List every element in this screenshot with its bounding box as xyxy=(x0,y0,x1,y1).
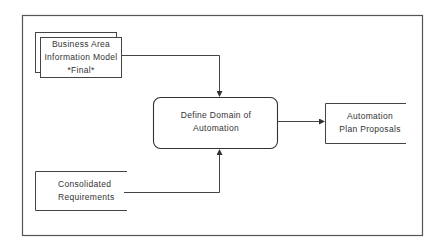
edge-requirements-to-define xyxy=(124,150,220,193)
define-domain-line-2: Automation xyxy=(154,122,278,135)
automation-plan-label: Automation Plan Proposals xyxy=(330,110,410,136)
define-domain-label: Define Domain of Automation xyxy=(154,109,278,135)
consolidated-requirements-label: Consolidated Requirements xyxy=(58,178,115,204)
business-area-line-3: *Final* xyxy=(40,64,122,77)
edge-business-to-define xyxy=(122,56,220,97)
automation-plan-line-2: Plan Proposals xyxy=(330,123,410,136)
business-area-label: Business Area Information Model *Final* xyxy=(40,38,122,77)
consolidated-line-2: Requirements xyxy=(58,191,115,204)
consolidated-line-1: Consolidated xyxy=(58,178,115,191)
business-area-line-1: Business Area xyxy=(40,38,122,51)
define-domain-line-1: Define Domain of xyxy=(154,109,278,122)
business-area-line-2: Information Model xyxy=(40,51,122,64)
automation-plan-line-1: Automation xyxy=(330,110,410,123)
